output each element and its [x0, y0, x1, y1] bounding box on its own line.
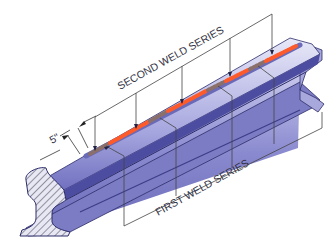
spacing-dimension-label: 5"	[47, 130, 61, 145]
rail-weld-diagram: SECOND WELD SERIES FIRST WELD SERIES 5"	[0, 0, 329, 240]
second-weld-series-label: SECOND WELD SERIES	[115, 23, 225, 91]
